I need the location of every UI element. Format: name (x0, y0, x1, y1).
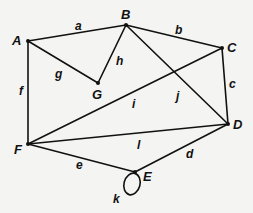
edge-k (121, 171, 142, 196)
edge-label-i: i (132, 97, 136, 111)
edge-label-f: f (19, 84, 24, 98)
edge-b (126, 25, 222, 48)
vertex-A (26, 39, 30, 43)
graph-diagram: abcdefghijlkABCDEFG (0, 0, 253, 213)
vertex-label-D: D (233, 117, 243, 132)
vertex-G (96, 81, 100, 85)
vertex-E (133, 170, 137, 174)
edge-c (222, 48, 228, 124)
edge-l (28, 124, 228, 144)
edges-group (28, 25, 228, 197)
vertex-C (220, 46, 224, 50)
edge-label-b: b (175, 23, 182, 37)
edge-label-e: e (76, 158, 83, 172)
edge-j (126, 25, 228, 124)
vertex-label-A: A (11, 33, 21, 48)
vertex-label-F: F (14, 142, 23, 157)
edge-label-g: g (54, 67, 63, 81)
vertex-B (124, 23, 128, 27)
vertex-D (226, 122, 230, 126)
vertex-label-E: E (143, 169, 152, 184)
edge-g (28, 41, 98, 83)
edge-label-c: c (229, 77, 236, 91)
edge-label-h: h (116, 54, 123, 68)
edge-i (28, 48, 222, 144)
edge-label-k: k (113, 192, 121, 206)
vertex-label-G: G (92, 87, 102, 102)
edge-label-l: l (137, 138, 141, 152)
edge-label-d: d (186, 147, 194, 161)
vertex-F (26, 142, 30, 146)
edge-label-j: j (174, 89, 180, 103)
edge-label-a: a (75, 19, 82, 33)
vertex-label-B: B (121, 7, 130, 22)
vertex-label-C: C (227, 40, 237, 55)
